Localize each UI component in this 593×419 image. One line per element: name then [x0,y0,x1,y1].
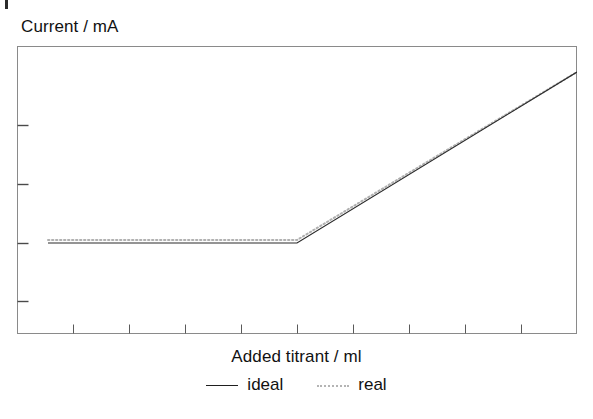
legend-entry-ideal: ideal [206,374,283,395]
legend-label-ideal: ideal [247,374,283,395]
legend-entry-real: real [317,374,386,395]
plot-frame-border [18,47,577,334]
y-axis-title: Current / mA [21,17,119,37]
plot-area [17,46,577,334]
scan-artifact-mark [5,0,8,9]
legend-label-real: real [358,374,386,395]
dotted-line-swatch-icon [317,380,349,390]
titration-chart-figure: Current / mA [0,0,593,419]
chart-legend: ideal real [0,374,593,395]
plot-svg [17,46,577,334]
x-axis-title: Added titrant / ml [0,346,593,367]
solid-line-swatch-icon [206,380,238,390]
